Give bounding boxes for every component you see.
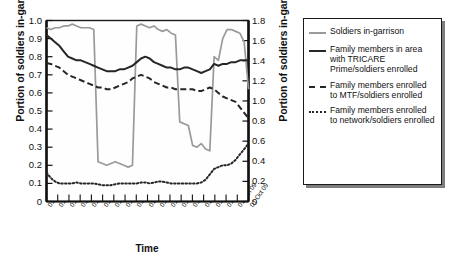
plot-frame: [47, 21, 249, 202]
legend-item: Soldiers in-garrison: [309, 26, 436, 39]
legend-swatch-dotted-icon: [309, 107, 326, 118]
legend-item: Family members in area with TRICARE Prim…: [309, 44, 436, 75]
legend-item: Family members enrolled to MTF/soldiers …: [309, 80, 436, 100]
legend-swatch-solid-icon: [309, 28, 326, 39]
legend-label: Family members enrolled to MTF/soldiers …: [330, 80, 436, 100]
legend-item: Family members enrolled to network/soldi…: [309, 105, 436, 125]
legend-label: Family members in area with TRICARE Prim…: [330, 44, 436, 75]
chart-legend: Soldiers in-garrisonFamily members in ar…: [303, 18, 442, 185]
legend-label: Family members enrolled to network/soldi…: [330, 105, 436, 125]
legend-swatch-dashed-icon: [309, 82, 326, 93]
chart-figure: Portion of soldiers in-garrison Portion …: [0, 0, 450, 261]
legend-label: Soldiers in-garrison: [330, 26, 404, 36]
legend-swatch-solid-icon: [309, 46, 326, 57]
